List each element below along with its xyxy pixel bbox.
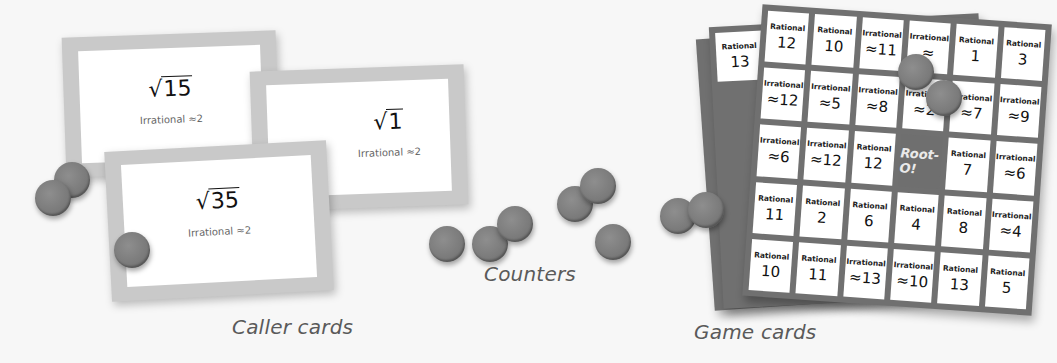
bingo-cell: Rational13 <box>937 252 982 306</box>
bingo-cell: Irrational≈12 <box>761 68 806 122</box>
bingo-cell: Irrational≈6 <box>757 125 802 179</box>
bingo-cell: Rational5 <box>985 255 1030 309</box>
cell-value: 11 <box>808 265 828 284</box>
cell-kind: Rational <box>801 253 837 264</box>
cell-value: 3 <box>1017 50 1028 69</box>
bingo-cell: Rational6 <box>847 188 892 242</box>
cell-kind: Irrational <box>992 209 1032 221</box>
caller-cards-label: Caller cards <box>232 315 353 339</box>
bingo-cell: Irrational≈5 <box>808 71 853 125</box>
game-cards-label: Game cards <box>694 320 817 344</box>
cell-kind: Irrational <box>764 79 804 91</box>
bingo-cell: Irrational≈13 <box>843 245 888 299</box>
counter-chip <box>114 232 150 268</box>
cell-kind: Irrational <box>909 32 949 44</box>
cell-value: 2 <box>816 208 827 227</box>
cell-value: ≈7 <box>960 104 983 123</box>
cell-kind: Irrational <box>846 257 886 269</box>
caller-card-sqrt-35: √35 Irrational ≈2 <box>104 140 334 301</box>
cell-kind: Rational <box>959 35 995 46</box>
cell-value: 7 <box>962 161 973 180</box>
bingo-cell: Rational10 <box>749 239 794 293</box>
cell-value: 12 <box>776 33 796 52</box>
bingo-cell: Irrational≈8 <box>855 74 900 128</box>
cell-value: ≈12 <box>766 90 799 110</box>
cell-kind: Rational <box>856 143 892 154</box>
cell-kind: Rational <box>1006 38 1042 49</box>
bingo-cell: Rational11 <box>753 182 798 236</box>
cell-value: 12 <box>863 154 883 173</box>
game-card-front: Rational12Rational10Irrational≈11Irratio… <box>742 4 1052 316</box>
bingo-cell: Rational11 <box>796 242 841 296</box>
cell-kind: Rational <box>951 149 987 160</box>
counter-chip <box>688 192 724 228</box>
cell-kind: Rational <box>770 22 806 33</box>
bingo-cell: Rational12 <box>765 11 810 65</box>
counters-label: Counters <box>484 262 576 286</box>
caller-card-note: Irrational ≈2 <box>188 224 252 238</box>
bingo-cell: Rational4 <box>894 192 939 246</box>
cell-kind: Rational <box>852 200 888 211</box>
cell-kind: Rational <box>758 193 794 204</box>
cell-kind: Rational <box>805 196 841 207</box>
bingo-cell: Rational10 <box>812 14 857 68</box>
cell-value: ≈6 <box>1003 164 1026 183</box>
cell-value: ≈5 <box>818 94 841 113</box>
cell-kind: Irrational <box>1000 95 1040 107</box>
bingo-cell: Rational12 <box>851 131 896 185</box>
bingo-cell: Rational2 <box>800 185 845 239</box>
counter-chip <box>595 224 631 260</box>
cell-kind: Rational <box>754 250 790 261</box>
bingo-cell: Rational3 <box>1001 27 1046 81</box>
bingo-cell: Irrational≈9 <box>997 84 1042 138</box>
cell-value: 5 <box>1001 279 1012 298</box>
cell-kind: Irrational <box>760 136 800 148</box>
caller-card-face: √35 Irrational ≈2 <box>121 155 317 287</box>
cell-value: ≈9 <box>1007 107 1030 126</box>
radical-expression: √1 <box>373 108 404 133</box>
counter-chip <box>35 180 71 216</box>
counter-chip <box>926 80 962 116</box>
cell-value: 8 <box>958 218 969 237</box>
counter-chip <box>898 54 934 90</box>
bingo-cell: Rational1 <box>953 24 998 78</box>
cell-value: ≈12 <box>809 150 842 170</box>
caller-card-note: Irrational ≈2 <box>358 146 421 159</box>
cell-kind: Irrational <box>807 139 847 151</box>
cell-kind: Irrational <box>996 152 1036 164</box>
cell-value: 4 <box>911 215 922 234</box>
bingo-cell: Irrational≈10 <box>890 249 935 303</box>
cell-kind: Rational <box>990 267 1026 278</box>
cell-value: ≈4 <box>999 221 1022 240</box>
cell-value: ≈8 <box>865 97 888 116</box>
bingo-cell: Irrational≈4 <box>989 198 1034 252</box>
counter-chip <box>429 226 465 262</box>
cell-kind: Rational <box>943 263 979 274</box>
caller-card-note: Irrational ≈2 <box>140 113 203 126</box>
cell-kind: Rational <box>817 25 853 36</box>
bingo-cell: Irrational≈6 <box>993 141 1038 195</box>
cell-kind: Rational <box>947 206 983 217</box>
bingo-cell: Irrational≈11 <box>859 17 904 71</box>
cell-value: ≈11 <box>865 40 898 60</box>
bingo-cell: Rational8 <box>941 195 986 249</box>
free-space-root-o: Root-O! <box>898 135 943 189</box>
cell-kind: Rational <box>899 203 935 214</box>
bingo-cell: Rational7 <box>945 138 990 192</box>
cell-value: ≈13 <box>849 268 882 288</box>
cell-kind: Irrational <box>862 28 902 40</box>
root-o-logo: Root-O! <box>899 145 942 178</box>
cell-value: 13 <box>949 275 969 294</box>
cell-value: 6 <box>864 212 875 231</box>
counter-chip <box>497 206 533 242</box>
game-materials-illustration: √15 Irrational ≈2 √1 Irrational ≈2 √35 I… <box>0 0 1057 363</box>
radical-expression: √35 <box>195 187 240 213</box>
cell-value: 10 <box>760 262 780 281</box>
cell-value: ≈6 <box>767 147 790 166</box>
cell-kind: Irrational <box>858 85 898 97</box>
cell-value: 11 <box>764 205 784 224</box>
cell-kind: Irrational <box>893 260 933 272</box>
cell-value: 1 <box>970 47 981 66</box>
radical-expression: √15 <box>148 75 193 101</box>
cell-kind: Irrational <box>811 82 851 94</box>
